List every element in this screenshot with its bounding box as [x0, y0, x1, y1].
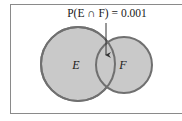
intersection-probability-label: P(E ∩ F) = 0.001: [67, 7, 147, 20]
set-f-label: F: [118, 58, 127, 72]
venn-diagram: P(E ∩ F) = 0.001 E F: [0, 0, 182, 121]
set-e-label: E: [71, 58, 80, 72]
